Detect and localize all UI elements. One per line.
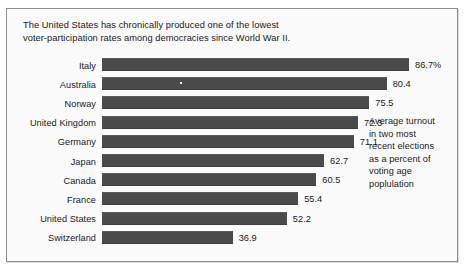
- bar-fill: [102, 58, 409, 71]
- chart-caption-note: Average turnout in two most recent elect…: [369, 115, 455, 191]
- bar-category-label: United States: [7, 213, 96, 225]
- bar-track: [102, 116, 358, 129]
- bar-fill: [102, 192, 298, 205]
- bar-row: Norway75.5: [7, 95, 459, 114]
- bar-track: [102, 212, 287, 225]
- bar-row: Italy86.7%: [7, 57, 459, 76]
- bar-value-label: 55.4: [304, 193, 322, 205]
- bar-row: Switzerland36.9: [7, 230, 459, 249]
- bar-track: [102, 135, 354, 148]
- bar-category-label: Norway: [7, 98, 96, 110]
- bar-value-label: 52.2: [293, 213, 311, 225]
- bar-fill: [102, 212, 287, 225]
- bar-value-label: 62.7: [330, 155, 348, 167]
- bar-fill: [102, 231, 233, 244]
- bar-fill: [102, 116, 358, 129]
- bar-value-label: 36.9: [239, 232, 257, 244]
- chart-title: The United States has chronically produc…: [23, 19, 423, 44]
- bar-value-label: 80.4: [393, 78, 411, 90]
- bar-category-label: Japan: [7, 156, 96, 168]
- bar-category-label: Australia: [7, 79, 96, 91]
- bar-track: [102, 58, 409, 71]
- bar-track: [102, 192, 298, 205]
- bar-category-label: Italy: [7, 60, 96, 72]
- bar-scan-artifact: [180, 82, 182, 84]
- bar-category-label: United Kingdom: [7, 117, 96, 129]
- chart-figure: The United States has chronically produc…: [6, 8, 458, 262]
- bar-fill: [102, 135, 354, 148]
- bar-fill: [102, 154, 324, 167]
- bar-row: Australia80.4: [7, 76, 459, 95]
- bar-category-label: Canada: [7, 175, 96, 187]
- bar-track: [102, 77, 387, 90]
- bar-category-label: Germany: [7, 136, 96, 148]
- bar-row: France55.4: [7, 191, 459, 210]
- bar-value-label: 60.5: [322, 174, 340, 186]
- bar-row: United States52.2: [7, 211, 459, 230]
- bar-track: [102, 231, 233, 244]
- bar-fill: [102, 173, 316, 186]
- bar-value-label: 75.5: [375, 97, 393, 109]
- bar-track: [102, 173, 316, 186]
- bar-fill: [102, 96, 369, 109]
- bar-value-label: 86.7%: [415, 59, 441, 71]
- bar-track: [102, 96, 369, 109]
- bar-fill: [102, 77, 387, 90]
- bar-track: [102, 154, 324, 167]
- bar-category-label: Switzerland: [7, 232, 96, 244]
- bar-category-label: France: [7, 194, 96, 206]
